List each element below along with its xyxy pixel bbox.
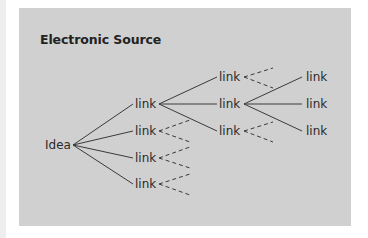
level1-node: link	[135, 151, 156, 165]
level2-node: link	[219, 97, 240, 111]
level1-node: link	[135, 124, 156, 138]
level2-node: link	[219, 124, 240, 138]
diagram-panel: Electronic Source	[19, 8, 351, 226]
level1-node: link	[135, 177, 156, 191]
tree-diagram: Idea link link link link link link link …	[19, 8, 351, 226]
level1-node: link	[135, 97, 156, 111]
level2-node: link	[219, 70, 240, 84]
level3-node: link	[306, 124, 327, 138]
root-node: Idea	[45, 138, 71, 152]
level3-node: link	[306, 97, 327, 111]
page-edge	[0, 0, 6, 238]
level3-node: link	[306, 70, 327, 84]
